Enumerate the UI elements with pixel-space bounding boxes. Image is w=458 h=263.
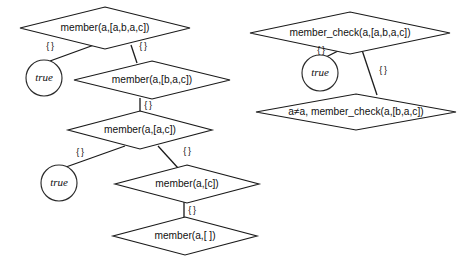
edge-member-ac-to-true-line [66,146,125,167]
edge-member-abac-to-bac-substitution-label: { } [139,41,147,51]
edge-check-abac-to-true-substitution-label: { } [317,45,325,55]
goal-node-member-c-label: member(a,[c]) [155,178,218,189]
nodes-layer: member(a,[a,b,a,c])truemember(a,[b,a,c])… [20,7,456,255]
edge-member-ac-to-c [158,146,178,168]
edge-member-ac-to-true-substitution-label: { } [76,147,84,157]
edge-member-abac-to-bac [131,45,137,63]
goal-node-member-check-bac-label: a≠a, member_check(a,[b,a,c]) [288,106,423,117]
edge-member-abac-to-true-line [50,45,94,61]
sld-resolution-diagram: member(a,[a,b,a,c])truemember(a,[b,a,c])… [0,0,458,263]
goal-node-member-check-bac[interactable]: a≠a, member_check(a,[b,a,c]) [256,94,456,130]
success-node-true-3[interactable]: true [302,55,338,91]
goal-node-member-bac-label: member(a,[b,a,c]) [112,74,192,85]
goal-node-member-c[interactable]: member(a,[c]) [115,165,259,203]
edge-member-ac-to-true [66,146,125,167]
edge-member-bac-to-ac-substitution-label: { } [144,100,152,110]
goal-node-member-check-abac[interactable]: member_check(a,[a,b,a,c]) [250,12,450,54]
edge-member-c-to-empty-substitution-label: { } [188,205,196,215]
success-node-true-3-label: true [311,66,329,78]
goal-node-member-abac-label: member(a,[a,b,a,c]) [61,22,150,33]
edge-member-ac-to-c-substitution-label: { } [183,146,191,156]
edge-check-abac-to-bac-substitution-label: { } [379,65,387,75]
goal-node-member-check-abac-label: member_check(a,[a,b,a,c]) [289,27,410,38]
success-node-true-1-label: true [35,71,53,83]
success-node-true-1[interactable]: true [26,60,62,96]
success-node-true-2-label: true [50,176,68,188]
success-node-true-2[interactable]: true [41,165,77,201]
goal-node-member-ac-label: member(a,[a,c]) [104,124,176,135]
goal-node-member-ac[interactable]: member(a,[a,c]) [68,111,212,149]
edge-member-abac-to-bac-line [131,45,137,63]
edge-member-abac-to-true-substitution-label: { } [46,41,54,51]
edge-member-ac-to-c-line [158,146,178,168]
edge-check-abac-to-bac-line [362,50,377,95]
edge-member-abac-to-true [50,45,94,61]
diagram-canvas: member(a,[a,b,a,c])truemember(a,[b,a,c])… [0,0,458,263]
goal-node-member-bac[interactable]: member(a,[b,a,c]) [74,61,230,99]
goal-node-member-empty[interactable]: member(a,[ ]) [113,217,257,255]
edge-check-abac-to-bac [362,50,377,95]
goal-node-member-empty-label: member(a,[ ]) [154,230,215,241]
